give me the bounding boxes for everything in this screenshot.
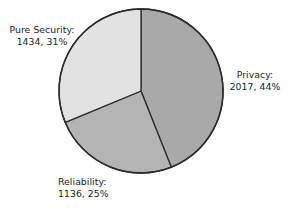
slice-label-reliability-value: 1136, 25% — [58, 188, 144, 200]
slice-label-reliability-name: Reliability: — [58, 176, 144, 188]
slice-label-pure-security: Pure Security: 1434, 31% — [4, 24, 80, 47]
slice-label-privacy-value: 2017, 44% — [220, 81, 290, 93]
slice-label-pure-security-value: 1434, 31% — [4, 36, 80, 48]
slice-label-privacy-name: Privacy: — [220, 69, 290, 81]
pie-chart-figure: Pure Security: 1434, 31% Privacy: 2017, … — [0, 0, 293, 209]
slice-label-reliability: Reliability: 1136, 25% — [58, 176, 144, 199]
slice-label-pure-security-name: Pure Security: — [4, 24, 80, 36]
slice-label-privacy: Privacy: 2017, 44% — [220, 69, 290, 92]
